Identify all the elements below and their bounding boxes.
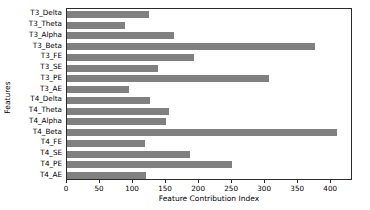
y-tick-label-t3_ae: T3_AE [8, 85, 62, 93]
bar-t4_delta [67, 97, 150, 104]
bar-row [67, 170, 351, 180]
x-tick-mark [99, 180, 100, 183]
bar-row [67, 127, 351, 138]
x-tick-label-300: 300 [257, 184, 271, 193]
bar-t4_beta [67, 129, 337, 136]
bar-chart-figure: Features T3_DeltaT3_ThetaT3_AlphaT3_Beta… [0, 0, 370, 210]
x-tick-mark [264, 180, 265, 183]
bar-t3_se [67, 65, 158, 72]
bar-row [67, 74, 351, 85]
y-tick-label-t3_theta: T3_Theta [8, 20, 62, 28]
bar-t3_pe [67, 75, 269, 82]
bar-t3_theta [67, 22, 125, 29]
x-tick-label-150: 150 [158, 184, 172, 193]
bar-row [67, 41, 351, 52]
y-tick-label-t4_pe: T4_PE [8, 160, 62, 168]
bar-row [67, 20, 351, 31]
y-tick-label-t3_alpha: T3_Alpha [8, 31, 62, 39]
x-tick-label-200: 200 [191, 184, 205, 193]
x-tick-mark [66, 180, 67, 183]
y-tick-label-t4_se: T4_SE [8, 149, 62, 157]
y-axis-tick-labels: T3_DeltaT3_ThetaT3_AlphaT3_BetaT3_FET3_S… [4, 8, 62, 180]
bar-t3_alpha [67, 32, 174, 39]
bar-t3_beta [67, 43, 315, 50]
y-tick-label-t4_alpha: T4_Alpha [8, 117, 62, 125]
y-tick-label-t3_pe: T3_PE [8, 74, 62, 82]
bar-row [67, 149, 351, 160]
y-tick-label-t3_delta: T3_Delta [8, 9, 62, 17]
x-tick-mark [297, 180, 298, 183]
bar-row [67, 9, 351, 20]
y-tick-label-t4_fe: T4_FE [8, 138, 62, 146]
y-tick-label-t3_se: T3_SE [8, 63, 62, 71]
y-tick-label-t3_beta: T3_Beta [8, 42, 62, 50]
x-tick-mark [198, 180, 199, 183]
bar-row [67, 84, 351, 95]
bar-t4_alpha [67, 118, 166, 125]
bar-row [67, 160, 351, 171]
x-tick-label-50: 50 [94, 184, 103, 193]
x-tick-label-250: 250 [224, 184, 238, 193]
x-tick-mark [132, 180, 133, 183]
bar-row [67, 95, 351, 106]
y-tick-label-t4_theta: T4_Theta [8, 106, 62, 114]
x-tick-label-350: 350 [290, 184, 304, 193]
bar-t3_delta [67, 11, 149, 18]
y-tick-label-t4_delta: T4_Delta [8, 95, 62, 103]
x-tick-mark [330, 180, 331, 183]
y-tick-label-t4_ae: T4_AE [8, 171, 62, 179]
bar-t3_fe [67, 54, 194, 61]
bar-row [67, 117, 351, 128]
y-tick-label-t3_fe: T3_FE [8, 52, 62, 60]
bar-t4_pe [67, 161, 232, 168]
x-tick-label-100: 100 [125, 184, 139, 193]
y-tick-label-t4_beta: T4_Beta [8, 128, 62, 136]
bar-row [67, 63, 351, 74]
bar-row [67, 138, 351, 149]
bar-t4_se [67, 151, 190, 158]
plot-area [66, 8, 352, 180]
x-tick-mark [165, 180, 166, 183]
bar-t4_theta [67, 108, 169, 115]
bar-row [67, 52, 351, 63]
bar-row [67, 31, 351, 42]
x-tick-label-0: 0 [64, 184, 69, 193]
bar-t4_fe [67, 140, 145, 147]
x-tick-mark [231, 180, 232, 183]
bar-t3_ae [67, 86, 129, 93]
x-axis-title: Feature Contribution Index [66, 194, 352, 203]
x-tick-label-400: 400 [323, 184, 337, 193]
bar-row [67, 106, 351, 117]
bar-t4_ae [67, 172, 146, 179]
